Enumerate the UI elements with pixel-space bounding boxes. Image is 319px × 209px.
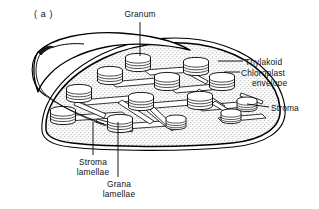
label-stroma-lamellae-line2: lamellae — [77, 167, 109, 177]
label-granum: Granum — [101, 9, 179, 19]
panel-letter: ( a ) — [34, 9, 53, 19]
granum-stack — [166, 115, 186, 130]
label-stroma-lamellae-line1: Stroma — [79, 157, 107, 167]
label-chloroplast-envelope-line1: Chloroplast — [241, 68, 285, 78]
granum-stack — [126, 53, 151, 71]
granum-stack — [210, 72, 235, 90]
label-grana-lamellae-line1: Grana — [107, 179, 131, 189]
label-stroma: Stroma — [271, 103, 317, 113]
granum-stack — [155, 72, 180, 90]
granum-stack — [129, 92, 154, 110]
label-chloroplast-envelope: Chloroplastenvelope — [241, 68, 317, 88]
label-grana-lamellae: Granalamellae — [92, 179, 146, 199]
label-thylakoid: Thylakoid — [245, 57, 315, 67]
granum-stack — [184, 57, 209, 75]
label-stroma-lamellae: Stromalamellae — [66, 157, 120, 177]
granum-stack — [108, 114, 133, 132]
label-chloroplast-envelope-line2: envelope — [241, 78, 317, 88]
granum-stack — [221, 109, 241, 124]
granum-stack — [188, 91, 213, 109]
label-grana-lamellae-line2: lamellae — [103, 189, 135, 199]
granum-stack — [98, 66, 123, 84]
figure-chloroplast-diagram: ( a ) Granum Thylakoid Chloroplastenvelo… — [0, 0, 319, 209]
granum-stack — [51, 106, 76, 124]
granum-stack — [67, 84, 92, 102]
